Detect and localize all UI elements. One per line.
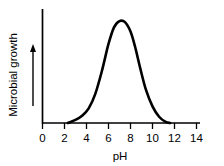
ph-growth-chart: Microbial growth 0 2 4 6 8 10 12 14 — [0, 0, 224, 166]
x-axis-label: pH — [113, 150, 128, 162]
x-tick-label-12: 12 — [168, 132, 181, 144]
x-tick-label-8: 8 — [127, 132, 133, 144]
x-tick-label-0: 0 — [39, 132, 45, 144]
y-axis-label: Microbial growth — [7, 33, 19, 117]
x-tick-label-14: 14 — [190, 132, 203, 144]
chart-canvas: Microbial growth 0 2 4 6 8 10 12 14 — [0, 0, 224, 166]
x-tick-label-4: 4 — [83, 132, 90, 144]
x-tick-label-6: 6 — [105, 132, 111, 144]
x-tick-label-10: 10 — [146, 132, 159, 144]
x-tick-label-2: 2 — [61, 132, 67, 144]
